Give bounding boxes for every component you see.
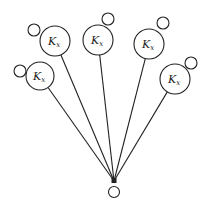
- node-n3: Kx: [134, 17, 169, 59]
- hub-vertex: [112, 178, 117, 183]
- star-graph-diagram: KxKxKxKxKx: [0, 0, 207, 207]
- loop-circle: [102, 13, 114, 25]
- node-n4: Kx: [14, 62, 54, 90]
- edge-n3: [114, 59, 145, 181]
- loop-circle: [157, 17, 169, 29]
- edge-n5: [114, 92, 167, 181]
- loop-circle: [28, 24, 40, 36]
- node-n2: Kx: [83, 13, 114, 55]
- edge-n1: [61, 55, 114, 181]
- node-n5: Kx: [160, 57, 197, 94]
- loop-circle: [185, 57, 197, 69]
- edge-n2: [100, 55, 114, 181]
- hub: [109, 178, 120, 198]
- loop-circle: [14, 65, 26, 77]
- nodes: KxKxKxKxKx: [14, 13, 197, 94]
- edges: [48, 55, 167, 181]
- node-n1: Kx: [28, 24, 70, 56]
- root-loop-circle: [109, 187, 120, 198]
